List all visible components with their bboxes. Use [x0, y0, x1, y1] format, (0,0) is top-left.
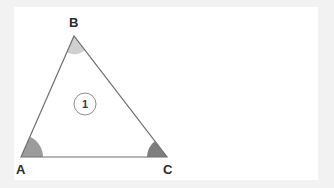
region-label-1: 1 — [82, 99, 88, 110]
angle-mark-a — [21, 137, 43, 157]
vertex-label-c: C — [163, 163, 173, 176]
vertex-label-a: A — [16, 163, 26, 176]
triangle-diagram-svg — [0, 0, 334, 188]
vertex-label-b: B — [69, 16, 79, 29]
triangle-outline — [21, 36, 167, 157]
figure-root: A B C 1 — [0, 0, 334, 188]
